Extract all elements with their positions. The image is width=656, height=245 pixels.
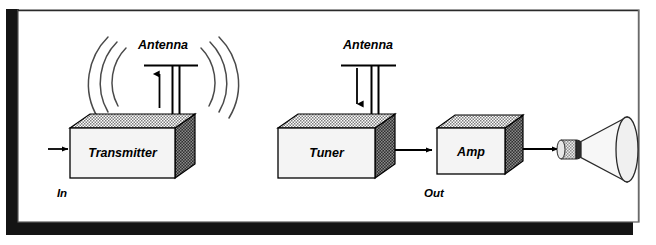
block-tuner[interactable]: Tuner: [278, 114, 395, 178]
block-tuner-label: Tuner: [309, 146, 345, 160]
frame-bottom-bar: [6, 222, 633, 235]
radio-system-diagram: Antenna Transmitter In Ante: [0, 0, 656, 245]
antenna-receive-label: Antenna: [342, 38, 393, 52]
block-transmitter[interactable]: Transmitter: [70, 114, 195, 178]
frame-left-bar: [6, 9, 19, 235]
block-amp[interactable]: Amp: [437, 115, 523, 174]
input-label: In: [57, 187, 67, 199]
output-label: Out: [424, 187, 445, 199]
figure-canvas: Antenna Transmitter In Ante: [0, 0, 656, 245]
antenna-transmit-label: Antenna: [137, 38, 188, 52]
block-transmitter-label: Transmitter: [88, 146, 158, 160]
block-amp-label: Amp: [456, 145, 485, 159]
